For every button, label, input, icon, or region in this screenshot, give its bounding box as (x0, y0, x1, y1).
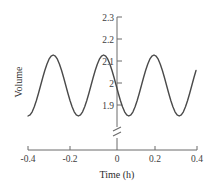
y-tick-label-2-1: 2.1 (102, 57, 114, 67)
y-tick-label-2-2: 2.2 (102, 35, 114, 45)
volume-vs-time-chart: 2.3 2.2 2.1 2 1.9 -0.4 -0.2 0 0.2 0.4 Ti… (0, 0, 212, 185)
y-tick-label-1-9: 1.9 (102, 101, 114, 111)
x-tick-label-0-4: 0.4 (191, 154, 203, 164)
y-tick-label-2-3: 2.3 (102, 13, 114, 23)
x-tick-label-0-2: 0.2 (149, 154, 161, 164)
x-tick-label-0: 0 (115, 154, 120, 164)
x-tick-label--0-2: -0.2 (62, 154, 77, 164)
y-tick-label-2: 2 (109, 79, 114, 89)
x-tick-label--0-4: -0.4 (20, 154, 35, 164)
x-axis-title: Time (h) (100, 169, 135, 181)
y-axis-title: Volume (13, 66, 24, 97)
axis-break-icon (113, 127, 121, 136)
chart-plot-area: 2.3 2.2 2.1 2 1.9 -0.4 -0.2 0 0.2 0.4 Ti… (0, 0, 212, 185)
